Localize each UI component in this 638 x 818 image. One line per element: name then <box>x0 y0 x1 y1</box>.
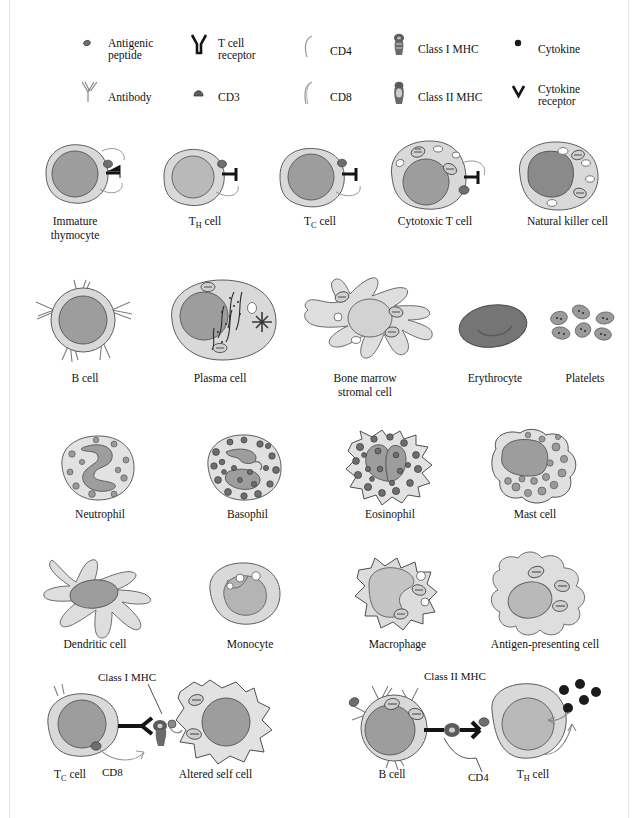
cell-basophil <box>198 428 298 508</box>
caption-tc-cell: TC cell <box>265 215 375 230</box>
legend-label: Class I MHC <box>418 43 479 56</box>
legend-label: Class II MHC <box>418 91 483 104</box>
legend-label: Antigenicpeptide <box>108 37 153 62</box>
cytokine-icon <box>508 32 534 66</box>
cell-b-cell <box>24 272 149 367</box>
legend-label: Cytokinereceptor <box>538 83 580 108</box>
cell-antigen-presenting-cell <box>478 548 598 643</box>
caption-dendritic-cell: Dendritic cell <box>35 638 155 652</box>
legend-label: CD3 <box>218 91 240 104</box>
cell-monocyte <box>198 556 298 636</box>
legend-item-class-ii-mhc: Class II MHC <box>388 80 483 114</box>
cell-dendritic-cell <box>36 552 161 642</box>
cell-macrophage <box>345 550 450 640</box>
antigenic-peptide-icon <box>78 32 104 66</box>
legend-item-cytokine-receptor: Cytokinereceptor <box>508 78 580 112</box>
cell-platelets <box>545 300 625 355</box>
cell-neutrophil <box>52 428 152 508</box>
caption-bone-marrow-stromal-cell: Bone marrowstromal cell <box>300 372 430 399</box>
caption-cytotoxic-t-cell: Cytotoxic T cell <box>375 215 495 229</box>
interaction-cytotoxic: Class I MHC CD8 <box>30 672 320 782</box>
legend-label: CD8 <box>330 91 352 104</box>
caption-tc-cell-bottom: TC cell <box>30 768 110 783</box>
interaction-helper: Class II MHC CD4 <box>332 668 627 783</box>
annotation-cd4: CD4 <box>468 771 489 783</box>
cell-th-cell <box>152 140 262 215</box>
caption-antigen-presenting-cell: Antigen-presenting cell <box>470 638 620 652</box>
caption-monocyte: Monocyte <box>195 638 305 652</box>
caption-platelets: Platelets <box>540 372 630 386</box>
caption-b-cell-bottom: B cell <box>352 768 432 782</box>
legend: Antigenicpeptide T cellreceptor CD4 <box>78 32 618 124</box>
antibody-icon <box>78 80 104 114</box>
legend-item-cd4: CD4 <box>300 34 352 68</box>
legend-item-t-cell-receptor: T cellreceptor <box>188 32 256 66</box>
legend-label: CD4 <box>330 45 352 58</box>
cd8-icon <box>300 80 326 114</box>
caption-th-cell: TH cell <box>150 215 260 230</box>
t-cell-receptor-icon <box>188 32 214 66</box>
caption-mast-cell: Mast cell <box>480 508 590 522</box>
caption-basophil: Basophil <box>195 508 300 522</box>
legend-item-antigenic-peptide: Antigenicpeptide <box>78 32 153 66</box>
cell-erythrocyte <box>456 300 531 355</box>
class-i-mhc-icon <box>388 32 414 66</box>
caption-erythrocyte: Erythrocyte <box>450 372 540 386</box>
caption-altered-self-cell: Altered self cell <box>148 768 283 782</box>
legend-label: Cytokine <box>538 43 580 56</box>
cell-cytotoxic-t-cell <box>378 133 503 218</box>
cell-natural-killer-cell <box>508 133 628 218</box>
legend-item-cd3: CD3 <box>188 80 240 114</box>
cell-mast-cell <box>480 425 590 510</box>
legend-label: T cellreceptor <box>218 37 256 62</box>
cell-immature-thymocyte <box>28 133 148 213</box>
annotation-class-ii-mhc: Class II MHC <box>424 670 486 682</box>
caption-plasma-cell: Plasma cell <box>160 372 280 386</box>
cd3-icon <box>188 80 214 114</box>
legend-item-antibody: Antibody <box>78 80 151 114</box>
cell-bone-marrow-stromal-cell <box>300 270 445 370</box>
legend-item-cd8: CD8 <box>300 80 352 114</box>
caption-neutrophil: Neutrophil <box>45 508 155 522</box>
cell-eosinophil <box>338 425 443 510</box>
caption-immature-thymocyte: Immaturethymocyte <box>20 215 130 242</box>
legend-item-cytokine: Cytokine <box>508 32 580 66</box>
legend-label: Antibody <box>108 91 151 104</box>
caption-th-cell-bottom: TH cell <box>488 768 578 783</box>
caption-natural-killer-cell: Natural killer cell <box>505 215 630 229</box>
figure-page: Antigenicpeptide T cellreceptor CD4 <box>0 0 638 818</box>
legend-item-class-i-mhc: Class I MHC <box>388 32 479 66</box>
cell-tc-cell <box>268 138 383 216</box>
annotation-class-i-mhc: Class I MHC <box>98 671 156 683</box>
caption-eosinophil: Eosinophil <box>335 508 445 522</box>
cytokine-receptor-icon <box>508 78 534 112</box>
caption-b-cell: B cell <box>30 372 140 386</box>
cell-plasma-cell <box>158 272 293 367</box>
caption-macrophage: Macrophage <box>340 638 455 652</box>
cd4-icon <box>300 34 326 68</box>
class-ii-mhc-icon <box>388 80 414 114</box>
